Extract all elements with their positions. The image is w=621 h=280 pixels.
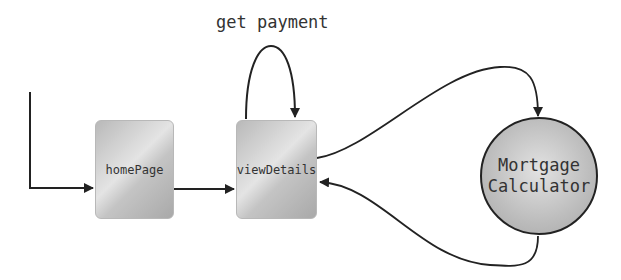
- self-loop-label: get payment: [216, 12, 329, 32]
- node-homepage-label: homePage: [106, 163, 164, 177]
- node-homepage: homePage: [95, 120, 174, 219]
- self-loop-edge: [246, 46, 295, 119]
- node-viewdetails-label: viewDetails: [237, 163, 316, 177]
- mortgage-label-line2: Calculator: [488, 176, 590, 197]
- node-mortgage-calculator: Mortgage Calculator: [480, 117, 598, 235]
- start-edge: [30, 92, 93, 188]
- mortgage-label-line1: Mortgage: [498, 155, 580, 176]
- node-viewdetails: viewDetails: [236, 120, 317, 219]
